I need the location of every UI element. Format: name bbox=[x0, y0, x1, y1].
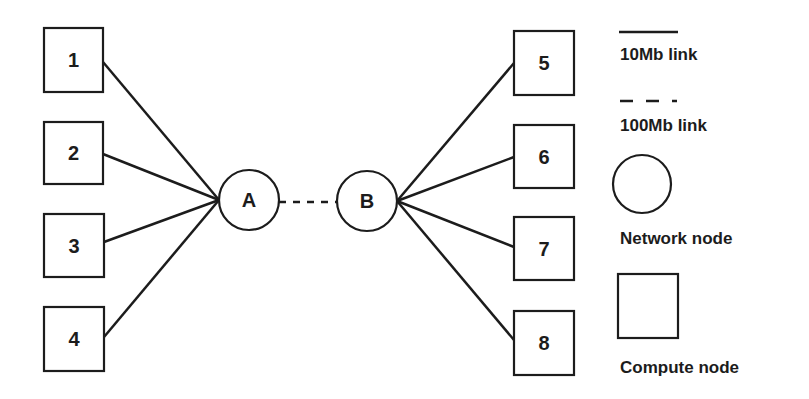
compute-node-label: 8 bbox=[538, 332, 549, 354]
compute-node-2: 2 bbox=[44, 122, 103, 184]
compute-node-label: 1 bbox=[68, 49, 79, 71]
network-node-label: B bbox=[360, 190, 374, 212]
legend-network-node-label: Network node bbox=[620, 230, 732, 247]
compute-node-5: 5 bbox=[514, 31, 574, 95]
network-node-A: A bbox=[219, 170, 279, 230]
compute-node-label: 6 bbox=[538, 146, 549, 168]
network-node-B: B bbox=[337, 171, 397, 231]
legend-circle-icon bbox=[613, 155, 671, 213]
compute-node-6: 6 bbox=[514, 125, 574, 188]
compute-node-8: 8 bbox=[514, 311, 574, 375]
compute-node-label: 7 bbox=[538, 238, 549, 260]
legend-100mb-label: 100Mb link bbox=[620, 117, 707, 134]
compute-node-label: 3 bbox=[68, 235, 79, 257]
network-node-label: A bbox=[242, 189, 256, 211]
compute-node-4: 4 bbox=[44, 307, 104, 371]
legend-compute-node-label: Compute node bbox=[620, 359, 739, 376]
link-B-7 bbox=[397, 201, 514, 247]
compute-node-3: 3 bbox=[44, 214, 104, 277]
compute-node-label: 4 bbox=[68, 328, 80, 350]
legend bbox=[613, 32, 678, 338]
legend-square-icon bbox=[618, 274, 678, 338]
link-B-8 bbox=[397, 201, 514, 340]
compute-node-label: 5 bbox=[538, 52, 549, 74]
legend-10mb-label: 10Mb link bbox=[620, 46, 697, 63]
links-layer bbox=[103, 62, 514, 340]
compute-node-7: 7 bbox=[514, 217, 574, 280]
compute-node-label: 2 bbox=[68, 142, 79, 164]
compute-node-1: 1 bbox=[44, 28, 103, 92]
link-1-A bbox=[103, 62, 219, 200]
link-2-A bbox=[103, 154, 219, 200]
